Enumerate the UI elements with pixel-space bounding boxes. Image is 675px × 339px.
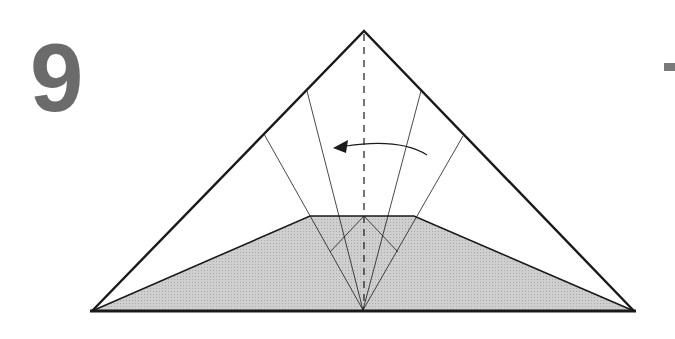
- fold-diagram: [0, 0, 675, 339]
- fold-arrow: [346, 143, 427, 155]
- arrow-head-icon: [333, 140, 348, 153]
- shaded-flap: [92, 216, 634, 311]
